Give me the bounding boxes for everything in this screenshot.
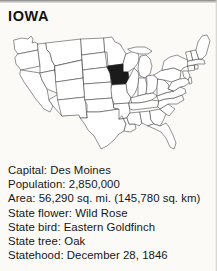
state-nebraska <box>83 67 111 84</box>
state-florida <box>148 123 176 149</box>
fact-area: Area: 56,290 sq. mi. (145,780 sq. km) <box>8 191 214 205</box>
state-indiana <box>138 78 147 96</box>
state-fact-card: IOWA <box>0 0 217 271</box>
united-states-map-svg <box>2 30 216 158</box>
state-ohio <box>146 75 158 94</box>
state-outlines-group <box>14 35 210 149</box>
state-minnesota <box>104 37 126 66</box>
state-facts-list: Capital: Des Moines Population: 2,850,00… <box>8 163 214 262</box>
state-new-york <box>162 55 190 71</box>
fact-statehood: Statehood: December 28, 1846 <box>8 248 214 262</box>
state-mississippi <box>127 112 142 126</box>
page-top-edge <box>0 0 217 3</box>
state-michigan-lower <box>138 55 152 78</box>
state-colorado <box>56 78 85 100</box>
state-kansas <box>84 82 112 100</box>
fact-state-bird: State bird: Eastern Goldfinch <box>8 220 214 234</box>
page-title: IOWA <box>8 9 49 24</box>
fact-state-flower: State flower: Wild Rose <box>8 206 214 220</box>
fact-capital: Capital: Des Moines <box>8 163 214 177</box>
fact-state-tree: State tree: Oak <box>8 234 214 248</box>
fact-population: Population: 2,850,000 <box>8 177 214 191</box>
state-rhode-island <box>195 65 198 69</box>
us-map-figure <box>2 30 216 158</box>
state-new-mexico <box>58 97 87 118</box>
state-maine <box>196 35 210 59</box>
